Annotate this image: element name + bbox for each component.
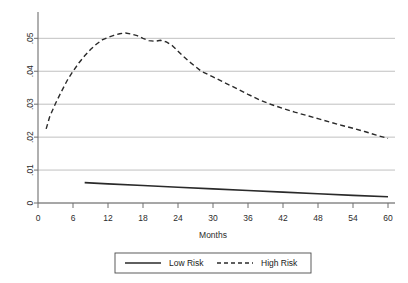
series-line-low-risk [85, 183, 388, 197]
legend-label-high-risk: High Risk [261, 258, 298, 268]
x-tick-label: 18 [138, 213, 148, 223]
y-tick-label: .05 [25, 32, 35, 44]
y-tick-label: 0 [25, 200, 35, 205]
y-tick-label: .01 [25, 164, 35, 176]
chart-container: 0.01.02.03.04.05 06121824303642485460 Mo… [0, 0, 408, 283]
y-tick-label: .04 [25, 65, 35, 77]
x-tick-label: 48 [313, 213, 323, 223]
line-chart: 0.01.02.03.04.05 06121824303642485460 Mo… [0, 0, 408, 283]
x-tick-label: 54 [348, 213, 358, 223]
gridlines [38, 38, 395, 203]
x-tick-label: 0 [36, 213, 41, 223]
y-tick-label: .03 [25, 98, 35, 110]
y-tick-label: .02 [25, 131, 35, 143]
legend-label-low-risk: Low Risk [169, 258, 204, 268]
x-tick-label: 30 [208, 213, 218, 223]
x-tick-label: 6 [71, 213, 76, 223]
x-tick-label: 42 [278, 213, 288, 223]
y-axis-ticks: 0.01.02.03.04.05 [25, 32, 38, 205]
series-layer [46, 33, 388, 197]
x-tick-label: 12 [103, 213, 113, 223]
x-tick-label: 60 [383, 213, 393, 223]
series-line-high-risk [46, 33, 388, 138]
x-tick-label: 24 [173, 213, 183, 223]
x-axis-title: Months [199, 230, 227, 240]
chart-legend: Low RiskHigh Risk [115, 253, 311, 273]
x-axis-ticks: 06121824303642485460 [36, 203, 393, 223]
x-tick-label: 36 [243, 213, 253, 223]
